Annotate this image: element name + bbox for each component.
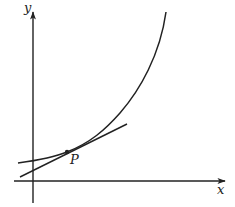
x-axis-label: x xyxy=(217,182,225,197)
diagram-canvas: P y x xyxy=(0,0,235,207)
tangent-diagram: P y x xyxy=(0,0,235,207)
function-curve xyxy=(18,12,166,163)
point-p-label: P xyxy=(69,152,79,167)
tangent-line xyxy=(20,124,127,177)
point-p-marker xyxy=(65,150,69,154)
y-axis-label: y xyxy=(23,0,32,15)
